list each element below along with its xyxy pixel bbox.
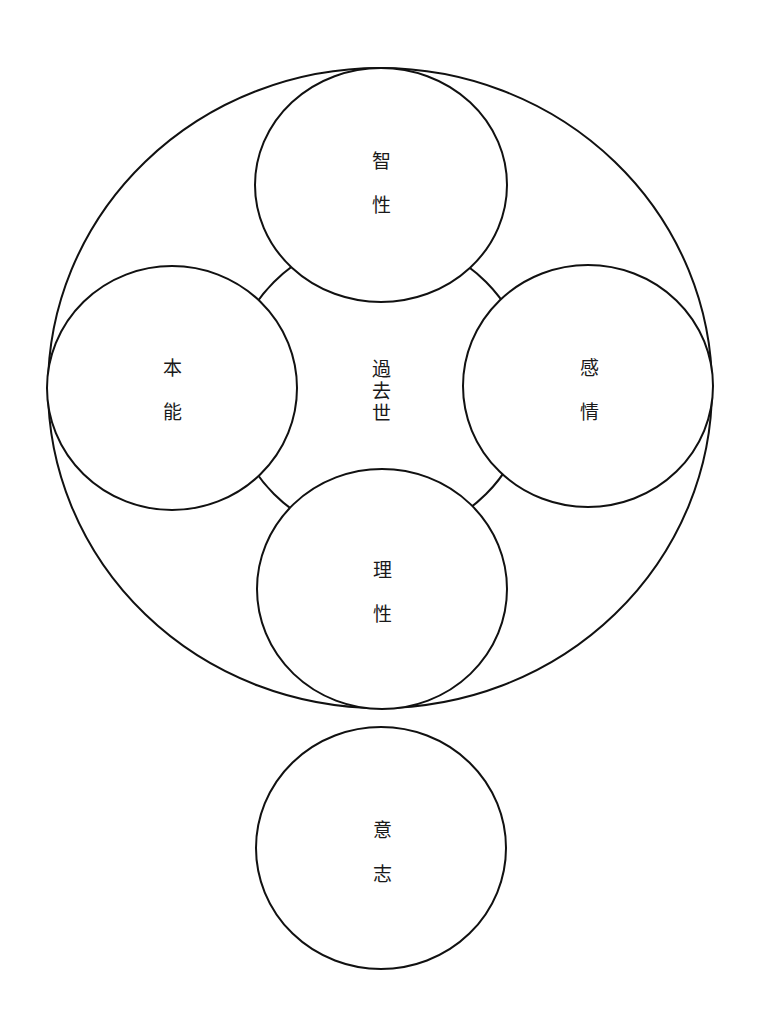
node-left-label: 本 能: [157, 346, 187, 434]
char: 志: [367, 852, 397, 896]
char: 能: [157, 390, 187, 434]
node-top-label: 智 性: [366, 139, 396, 227]
char: 去: [366, 380, 396, 402]
char: 情: [574, 390, 604, 434]
char: 本: [157, 346, 187, 390]
char: 理: [367, 548, 397, 592]
node-bottom-label: 理 性: [367, 548, 397, 636]
char: 意: [367, 808, 397, 852]
node-will-label: 意 志: [367, 808, 397, 896]
char: 性: [367, 592, 397, 636]
char: 智: [366, 139, 396, 183]
node-right-label: 感 情: [574, 346, 604, 434]
char: 過: [366, 358, 396, 380]
char: 性: [366, 183, 396, 227]
char: 世: [366, 402, 396, 424]
center-label: 過 去 世: [366, 358, 396, 424]
char: 感: [574, 346, 604, 390]
